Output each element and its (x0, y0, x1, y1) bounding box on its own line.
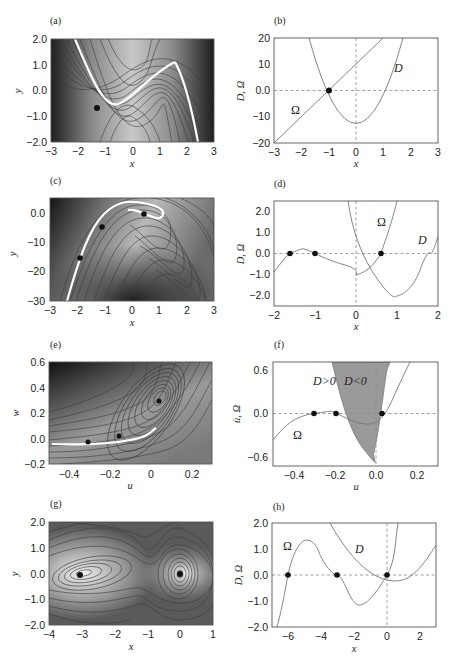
y-axis-h: 2.0 1.0 0.0 −1.0 −2.0 D, Ω (233, 517, 268, 633)
svg-text:−1: −1 (309, 309, 321, 321)
figure-canvas: (a) −3 −2 (0, 0, 454, 661)
panel-f: (f) D>0 D<0 Ω −0.4 −0.2 0.0 0.2 u 0.6 0.… (231, 339, 438, 492)
svg-text:−4: −4 (315, 630, 327, 642)
fixed-point-d-1 (287, 251, 293, 257)
panel-label-g: (g) (50, 498, 62, 510)
contour-map-g (49, 521, 213, 625)
fixed-point-h-3 (384, 572, 390, 578)
y-axis-label-f: u̇, Ω (231, 405, 242, 424)
svg-text:1: 1 (380, 146, 386, 158)
svg-text:1.0: 1.0 (255, 226, 270, 238)
svg-text:1: 1 (210, 628, 216, 640)
svg-text:0.2: 0.2 (410, 469, 425, 481)
fixed-point-g-2 (177, 571, 183, 577)
y-axis-a: 2.0 1.0 0.0 −1.0 −2.0 y (12, 33, 47, 148)
annotation-d-h: D (354, 542, 364, 556)
d-curve-h (330, 523, 436, 581)
x-axis-label-a: x (129, 158, 135, 169)
svg-text:1.0: 1.0 (30, 542, 45, 554)
y-axis-label-a: y (12, 88, 23, 94)
svg-text:−0.4: −0.4 (284, 469, 305, 481)
x-axis-g: −4 −3 −2 −1 0 1 x (43, 628, 216, 652)
fixed-point-c-1 (77, 255, 83, 261)
svg-text:1.0: 1.0 (253, 543, 268, 555)
svg-text:−20: −20 (252, 137, 270, 149)
svg-text:−0.2: −0.2 (24, 458, 45, 470)
fixed-point-c-3 (141, 211, 147, 217)
fixed-point-a-1 (94, 105, 100, 111)
panel-label-f: (f) (274, 339, 284, 351)
svg-text:−20: −20 (27, 265, 45, 277)
svg-text:2.0: 2.0 (30, 516, 45, 528)
svg-text:0: 0 (130, 145, 136, 157)
svg-text:0: 0 (353, 146, 359, 158)
panel-label-a: (a) (50, 15, 61, 27)
y-axis-b: 20 10 0.0 −10 −20 D, Ω (235, 32, 270, 149)
x-axis-label-e: u (127, 480, 132, 491)
svg-text:2.0: 2.0 (32, 33, 47, 45)
y-axis-g: 2.0 1.0 0.0 −1.0 −2.0 y (9, 516, 45, 631)
svg-text:0.0: 0.0 (30, 568, 45, 580)
x-axis-h: −6 −4 −2 0 2 x (282, 630, 423, 654)
contour-map-a (51, 39, 214, 142)
panel-e: (e) (10, 339, 212, 491)
svg-text:0.0: 0.0 (255, 247, 270, 259)
svg-text:−1: −1 (142, 628, 154, 640)
fixed-point-f-3 (379, 411, 385, 417)
svg-text:3: 3 (211, 304, 217, 316)
fixed-point-c-2 (99, 224, 105, 230)
svg-text:0.0: 0.0 (30, 433, 45, 445)
panel-c: (c) −3 −2 (7, 175, 217, 328)
fixed-point-h-2 (334, 572, 340, 578)
svg-text:0.0: 0.0 (255, 84, 270, 96)
svg-text:0: 0 (148, 468, 154, 480)
svg-text:0: 0 (384, 630, 390, 642)
svg-text:0.0: 0.0 (369, 469, 384, 481)
svg-text:2: 2 (417, 630, 423, 642)
panel-label-c: (c) (50, 175, 61, 187)
panel-label-d: (d) (274, 178, 286, 190)
y-axis-label-e: w (10, 409, 21, 416)
svg-text:1: 1 (157, 145, 163, 157)
svg-text:20: 20 (258, 32, 270, 44)
annotation-omega-h: Ω (283, 539, 292, 553)
panel-label-h: (h) (273, 501, 285, 513)
svg-text:−0.4: −0.4 (59, 468, 80, 480)
omega-curve-d (274, 201, 397, 275)
panel-g: (g) (9, 498, 216, 652)
fixed-point-f-2 (333, 411, 339, 417)
panel-h: (h) Ω D −6 −4 −2 0 2 x 2.0 1.0 0.0 −1.0 … (233, 501, 436, 654)
svg-text:10: 10 (258, 58, 270, 70)
annotation-d-d: D (417, 233, 427, 247)
svg-text:2: 2 (184, 304, 190, 316)
x-axis-label-d: x (353, 321, 359, 332)
svg-text:1: 1 (156, 304, 162, 316)
svg-text:−1.0: −1.0 (24, 593, 45, 605)
y-axis-label-b: D, Ω (235, 80, 246, 102)
y-axis-label-g: y (9, 571, 20, 577)
x-axis-label-c: x (129, 317, 135, 328)
svg-text:2: 2 (408, 146, 414, 158)
svg-text:−3: −3 (76, 628, 88, 640)
svg-text:0.2: 0.2 (185, 468, 200, 480)
annotation-omega-d: Ω (377, 215, 386, 229)
svg-text:−2.0: −2.0 (247, 621, 268, 633)
x-axis-c: −3 −2 −1 0 1 2 3 x (44, 304, 217, 328)
svg-text:−30: −30 (27, 295, 45, 307)
svg-text:−0.6: −0.6 (247, 451, 268, 463)
svg-text:−2: −2 (295, 146, 307, 158)
y-axis-label-h: D, Ω (233, 564, 244, 586)
svg-text:−0.2: −0.2 (325, 469, 346, 481)
panel-d: (d) Ω D −2 −1 0 1 2 x 2.0 1.0 0.0 −1.0 (235, 178, 441, 332)
svg-text:−1.0: −1.0 (26, 110, 47, 122)
y-axis-e: 0.6 0.4 0.2 0.0 −0.2 w (10, 356, 45, 470)
svg-text:−1: −1 (323, 146, 335, 158)
svg-text:−2.0: −2.0 (249, 289, 270, 301)
svg-text:0.0: 0.0 (30, 207, 45, 219)
svg-text:−2: −2 (71, 304, 83, 316)
x-axis-b: −3 −2 −1 0 1 2 3 x (268, 146, 441, 169)
svg-text:−0.2: −0.2 (100, 468, 121, 480)
svg-text:2: 2 (435, 309, 441, 321)
svg-text:0: 0 (353, 309, 359, 321)
svg-text:0.2: 0.2 (30, 407, 45, 419)
